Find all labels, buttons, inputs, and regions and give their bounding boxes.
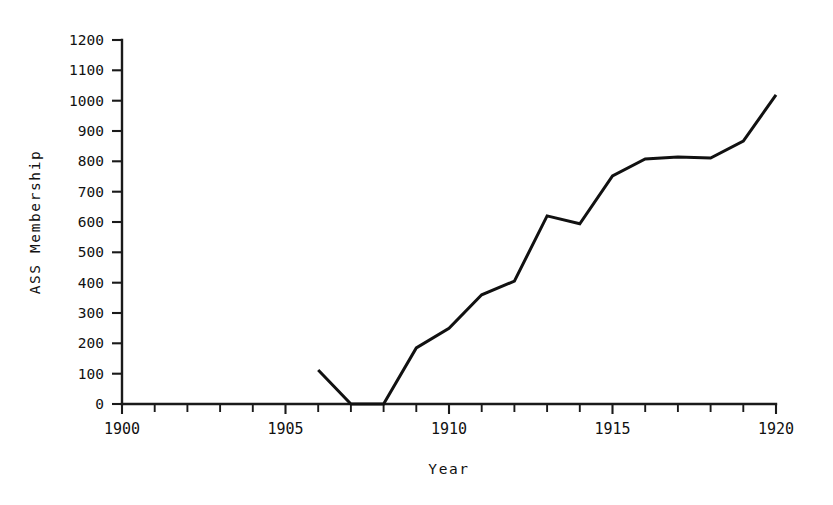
x-axis-title: Year — [428, 461, 469, 477]
x-tick-label-1920: 1920 — [758, 420, 794, 438]
y-tick-label-1200: 1200 — [69, 32, 104, 48]
y-tick-label-300: 300 — [78, 305, 104, 321]
chart-figure: 0 100 200 300 400 500 600 700 800 900 10… — [0, 0, 833, 505]
x-axis-ticks — [122, 404, 776, 414]
y-tick-label-200: 200 — [78, 335, 104, 351]
y-tick-label-400: 400 — [78, 275, 104, 291]
y-tick-label-800: 800 — [78, 153, 104, 169]
y-tick-label-1100: 1100 — [69, 62, 104, 78]
x-tick-label-1910: 1910 — [431, 420, 467, 438]
y-axis-ticks — [112, 40, 122, 404]
y-tick-label-1000: 1000 — [69, 93, 104, 109]
membership-data-line — [318, 95, 776, 404]
y-tick-label-0: 0 — [95, 396, 104, 412]
x-tick-label-1905: 1905 — [267, 420, 303, 438]
y-tick-label-600: 600 — [78, 214, 104, 230]
y-tick-label-500: 500 — [78, 244, 104, 260]
y-tick-label-700: 700 — [78, 184, 104, 200]
y-tick-label-100: 100 — [78, 366, 104, 382]
line-chart-plot: 0 100 200 300 400 500 600 700 800 900 10… — [0, 0, 833, 505]
x-axis-tick-labels: 1900 1905 1910 1915 1920 — [104, 420, 794, 438]
y-axis-tick-labels: 0 100 200 300 400 500 600 700 800 900 10… — [69, 32, 104, 412]
chart-axes — [122, 40, 776, 404]
x-tick-label-1915: 1915 — [594, 420, 630, 438]
y-axis-title: ASS Membership — [27, 150, 43, 295]
y-tick-label-900: 900 — [78, 123, 104, 139]
x-tick-label-1900: 1900 — [104, 420, 140, 438]
